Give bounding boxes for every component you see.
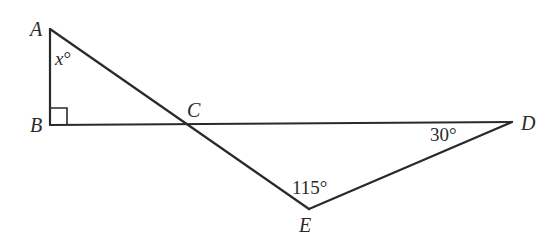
point-label-a: A (28, 18, 43, 40)
segment-ed (309, 122, 512, 209)
point-label-b: B (30, 114, 42, 136)
geometry-diagram: A B C D E x° 30° 115° (0, 0, 560, 250)
angle-label-e: 115° (292, 177, 327, 198)
right-angle-marker (50, 108, 67, 125)
angle-label-a: x° (54, 48, 71, 69)
point-label-e: E (298, 214, 311, 236)
segment-ae (50, 29, 309, 209)
point-label-d: D (520, 112, 536, 134)
point-label-c: C (187, 99, 201, 121)
angle-label-d: 30° (430, 124, 457, 145)
